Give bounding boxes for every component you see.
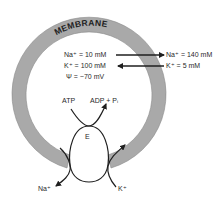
na-out-label: Na⁺ bbox=[38, 185, 51, 193]
k-in-label: K⁺ bbox=[118, 185, 127, 193]
adp-pi-label: ADP + Pᵢ bbox=[90, 97, 118, 105]
membrane-label: MEMBRANE bbox=[53, 18, 109, 37]
outside-na-concentration: Na⁺ = 140 mM bbox=[166, 51, 212, 59]
inside-na-concentration: Na⁺ = 10 mM bbox=[64, 51, 106, 59]
inside-k-concentration: K⁺ = 100 mM bbox=[64, 62, 106, 70]
enzyme-label: E bbox=[85, 133, 90, 141]
outside-k-concentration: K⁺ = 5 mM bbox=[166, 62, 200, 70]
membrane-potential: Ψ = −70 mV bbox=[66, 73, 104, 81]
atp-label: ATP bbox=[62, 97, 75, 105]
